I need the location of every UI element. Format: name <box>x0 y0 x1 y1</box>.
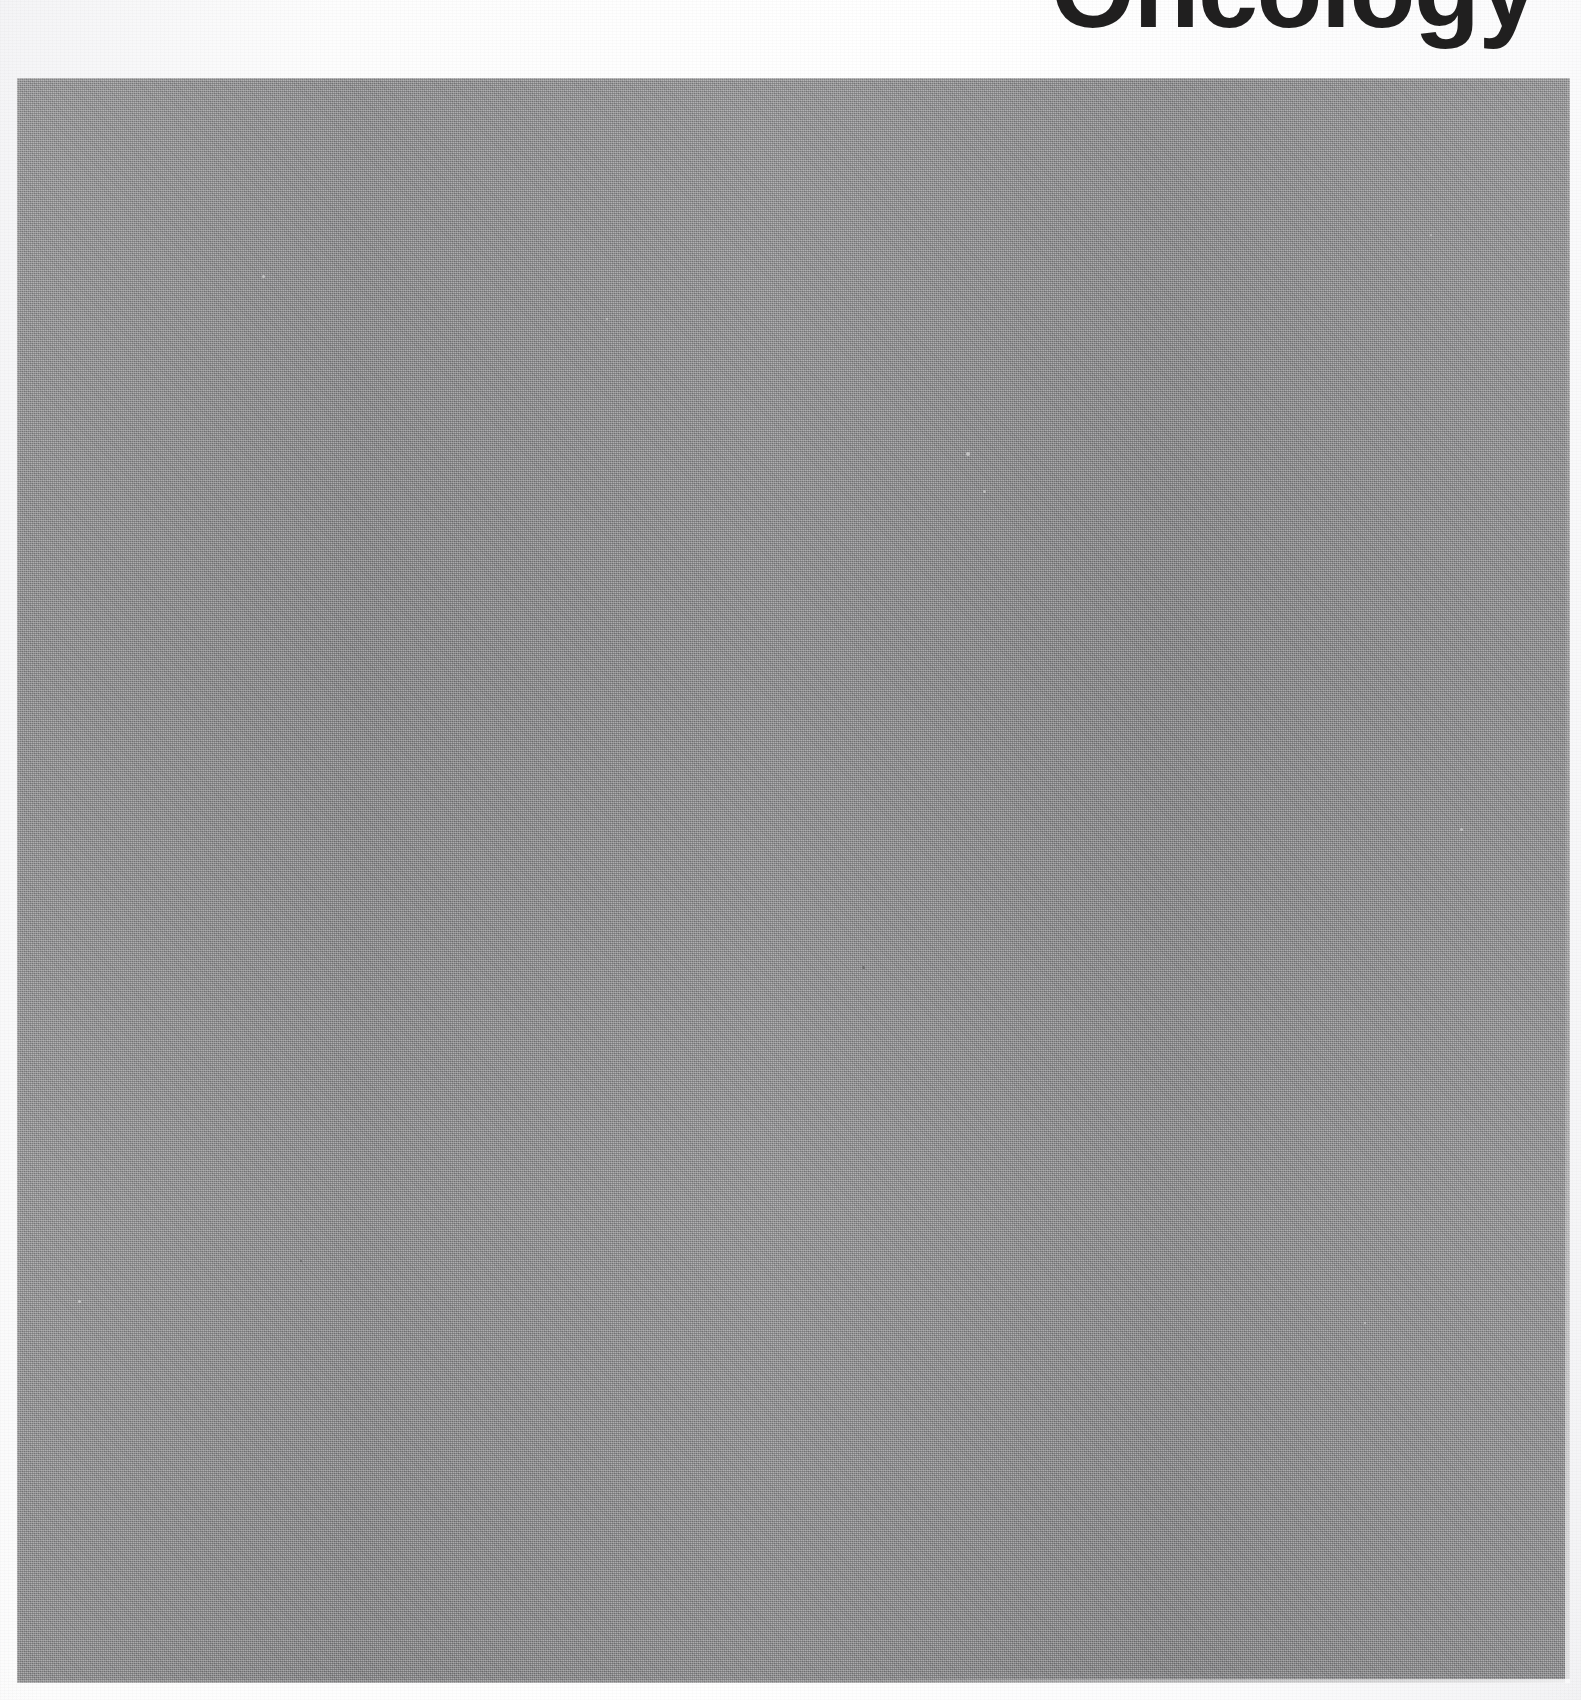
plate-right-edge <box>1565 78 1570 1683</box>
scanned-page: Oncology <box>0 0 1581 1700</box>
scan-speck <box>1460 828 1463 831</box>
plate-tonal-shading <box>17 78 1570 1683</box>
scan-speck <box>983 490 986 493</box>
scan-speck <box>606 318 608 320</box>
plate-bottom-edge <box>17 1679 1570 1683</box>
halftone-screen-texture <box>17 78 1570 1683</box>
halftone-plate <box>17 78 1570 1683</box>
scan-speck <box>262 275 265 278</box>
scan-speck <box>78 1300 81 1303</box>
page-heading-region: Oncology <box>0 0 1581 52</box>
scan-speck <box>966 452 970 456</box>
scan-speck <box>300 1260 302 1262</box>
plate-edge-fade <box>17 78 1570 1683</box>
page-title: Oncology <box>1051 0 1537 44</box>
scan-speck <box>1430 234 1432 236</box>
scan-speck <box>1364 1322 1366 1324</box>
scan-speck <box>862 966 865 969</box>
